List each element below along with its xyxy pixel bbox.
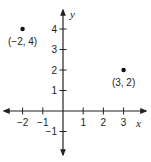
y-tick-label: 1 — [51, 85, 57, 96]
data-point — [121, 68, 125, 72]
data-point-label: (−2, 4) — [8, 36, 37, 47]
data-point-label: (3, 2) — [112, 77, 135, 88]
y-tick-label: −1 — [46, 126, 58, 137]
coordinate-plane: x y −2−1123−11234 (−2, 4)(3, 2) — [0, 0, 151, 162]
x-tick-label: 3 — [121, 117, 127, 128]
y-tick-label: 4 — [51, 24, 57, 35]
y-axis-label: y — [69, 8, 75, 20]
x-tick-label: 2 — [101, 117, 107, 128]
x-axis-label: x — [135, 117, 141, 129]
x-tick-label: 1 — [80, 117, 86, 128]
y-tick-label: 3 — [51, 44, 57, 55]
y-tick-label: 2 — [51, 65, 57, 76]
data-point — [20, 27, 24, 31]
x-tick-label: −2 — [17, 117, 29, 128]
data-points: (−2, 4)(3, 2) — [8, 27, 135, 88]
